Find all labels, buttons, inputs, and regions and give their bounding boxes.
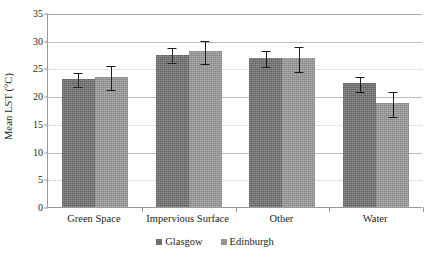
error-bar-cap-upper: [168, 48, 177, 49]
bar: [249, 58, 282, 207]
error-bar: [266, 51, 267, 67]
error-bar-cap-lower: [294, 72, 303, 73]
y-tick-label: 25: [33, 64, 43, 74]
error-bar-cap-lower: [261, 67, 270, 68]
y-tick-label: 15: [33, 120, 43, 130]
error-bar-cap-upper: [201, 41, 210, 42]
error-bar: [111, 66, 112, 90]
error-bar-cap-lower: [107, 90, 116, 91]
error-bar-cap-lower: [388, 117, 397, 118]
legend-item: Edinburgh: [221, 237, 274, 248]
error-bar-cap-lower: [74, 87, 83, 88]
error-bar-cap-upper: [107, 66, 116, 67]
error-bar-cap-upper: [261, 51, 270, 52]
x-category-label: Other: [269, 214, 293, 225]
legend-swatch-edinburgh: [221, 239, 227, 245]
y-axis-title: Mean LST (°C): [0, 0, 18, 212]
x-category-label: Impervious Surface: [146, 214, 229, 225]
x-tick-mark: [423, 207, 424, 212]
legend: GlasgowEdinburgh: [0, 237, 430, 248]
error-bar-cap-lower: [355, 92, 364, 93]
bar: [156, 55, 189, 207]
x-category-label: Water: [363, 214, 388, 225]
bar-chart: Mean LST (°C) 35302520151050 Green Space…: [0, 0, 430, 259]
plot-area: 35302520151050: [47, 14, 422, 208]
y-tick-label: 20: [33, 92, 43, 102]
error-bar: [78, 73, 79, 87]
bar: [95, 77, 128, 207]
x-category-label: Green Space: [67, 214, 120, 225]
error-bar: [393, 92, 394, 116]
error-bar: [299, 47, 300, 71]
error-bar-cap-upper: [294, 47, 303, 48]
legend-label: Glasgow: [165, 237, 202, 248]
y-tick-label: 30: [33, 37, 43, 47]
bar: [282, 58, 315, 207]
error-bar: [360, 77, 361, 91]
x-tick-mark: [329, 207, 330, 212]
y-tick-mark: [44, 208, 48, 209]
legend-label: Edinburgh: [230, 237, 274, 248]
y-tick-label: 10: [33, 148, 43, 158]
bar: [62, 79, 95, 207]
error-bar-cap-upper: [74, 73, 83, 74]
error-bar: [172, 48, 173, 62]
error-bar-cap-upper: [388, 92, 397, 93]
error-bar-cap-lower: [201, 64, 210, 65]
x-tick-mark: [236, 207, 237, 212]
y-tick-label: 0: [38, 203, 43, 213]
bar: [343, 83, 376, 207]
bar: [189, 51, 222, 207]
error-bar: [205, 41, 206, 64]
bar: [376, 103, 409, 207]
error-bar-cap-lower: [168, 63, 177, 64]
y-tick-label: 35: [33, 9, 43, 19]
y-tick-label: 5: [38, 175, 43, 185]
bars-layer: [48, 14, 422, 207]
x-tick-mark: [142, 207, 143, 212]
legend-item: Glasgow: [156, 237, 202, 248]
y-axis-title-text: Mean LST (°C): [4, 72, 15, 139]
error-bar-cap-upper: [355, 77, 364, 78]
legend-swatch-glasgow: [156, 239, 162, 245]
